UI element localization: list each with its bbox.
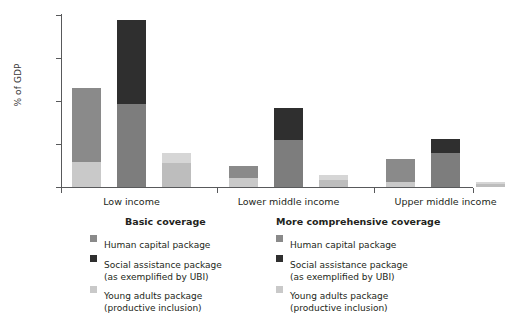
y-axis-title: % of GDP <box>13 45 23 125</box>
y-tick-mark <box>56 15 61 16</box>
bar-upper-middle-social-assistance <box>431 139 460 187</box>
bar-segment-upper <box>229 166 258 178</box>
legend-item-label: Social assistance package(as exemplified… <box>290 260 480 283</box>
x-axis-group-separator <box>217 188 218 193</box>
basic-legend-item-1[interactable]: Social assistance package(as exemplified… <box>90 253 270 283</box>
bar-segment-lower <box>72 162 101 187</box>
legend-swatch-icon <box>90 255 97 262</box>
x-axis-group-separator <box>374 188 375 193</box>
legend-swatch-icon <box>90 235 97 242</box>
legend-items-basic: Human capital packageSocial assistance p… <box>90 233 270 313</box>
y-tick-5: 5 <box>0 144 61 145</box>
legend-items-comprehensive: Human capital packageSocial assistance p… <box>276 233 480 313</box>
bar-low-income-human-capital <box>72 88 101 187</box>
bar-segment-lower <box>476 184 505 187</box>
bar-segment-lower <box>386 182 415 187</box>
bar-segment-upper <box>72 88 101 162</box>
comprehensive-legend-item-0[interactable]: Human capital package <box>276 233 480 252</box>
x-axis-label-lower-middle-income: Lower middle income <box>209 196 369 207</box>
legend-item-label: Young adults package(productive inclusio… <box>104 291 270 314</box>
bar-segment-upper <box>117 20 146 103</box>
legend-item-sublabel: (as exemplified by UBI) <box>104 272 270 283</box>
bar-segment-upper <box>386 159 415 182</box>
legend-swatch-icon <box>276 255 283 262</box>
bar-segment-upper <box>319 175 348 180</box>
x-axis-label-upper-middle-income: Upper middle income <box>366 196 509 207</box>
legend-swatch-icon <box>276 286 283 293</box>
x-axis-end-tick <box>473 188 474 193</box>
bar-lower-middle-social-assistance <box>274 108 303 187</box>
legend-swatch-icon <box>90 286 97 293</box>
legend-item-label: Human capital package <box>290 240 396 250</box>
bar-segment-lower <box>431 153 460 187</box>
bar-segment-upper <box>476 182 505 184</box>
bar-segment-lower <box>274 140 303 187</box>
bar-upper-middle-human-capital <box>386 159 415 187</box>
legend-item-label: Social assistance package(as exemplified… <box>104 260 270 283</box>
bar-lower-middle-human-capital <box>229 166 258 187</box>
comprehensive-legend-item-2[interactable]: Young adults package(productive inclusio… <box>276 284 480 314</box>
bar-segment-lower <box>117 104 146 187</box>
y-tick-mark <box>56 58 61 59</box>
bar-upper-middle-young-adults <box>476 182 505 187</box>
y-tick-mark <box>56 101 61 102</box>
bar-low-income-social-assistance <box>117 20 146 187</box>
bar-low-income-young-adults <box>162 153 191 187</box>
x-axis-label-low-income: Low income <box>52 196 212 207</box>
bar-segment-upper <box>431 139 460 153</box>
basic-legend-item-2[interactable]: Young adults package(productive inclusio… <box>90 284 270 314</box>
legend-item-sublabel: (productive inclusion) <box>104 303 270 314</box>
y-tick-15: 15 <box>0 58 61 59</box>
chart-legend: Basic coverage Human capital packageSoci… <box>0 216 480 310</box>
legend-title-basic: Basic coverage <box>90 216 270 227</box>
legend-group-basic-coverage: Basic coverage Human capital packageSoci… <box>90 216 270 314</box>
bar-segment-lower <box>162 163 191 187</box>
y-tick-mark <box>56 144 61 145</box>
bar-segment-upper <box>162 153 191 163</box>
comprehensive-legend-item-1[interactable]: Social assistance package(as exemplified… <box>276 253 480 283</box>
legend-swatch-icon <box>276 235 283 242</box>
legend-group-comprehensive-coverage: More comprehensive coverage Human capita… <box>276 216 480 314</box>
bar-lower-middle-young-adults <box>319 175 348 187</box>
legend-item-sublabel: (productive inclusion) <box>290 303 480 314</box>
bar-segment-lower <box>319 180 348 187</box>
y-tick-20: 20 <box>0 15 61 16</box>
legend-item-sublabel: (as exemplified by UBI) <box>290 272 480 283</box>
y-tick-10: 10 <box>0 101 61 102</box>
y-tick-0: 0 <box>0 187 61 188</box>
plot-area <box>62 15 473 187</box>
x-axis-line <box>61 187 473 188</box>
legend-item-label: Young adults package(productive inclusio… <box>290 291 480 314</box>
x-axis-end-tick <box>61 188 62 193</box>
legend-item-label: Human capital package <box>104 240 210 250</box>
basic-legend-item-0[interactable]: Human capital package <box>90 233 270 252</box>
bar-segment-upper <box>274 108 303 140</box>
legend-title-comprehensive: More comprehensive coverage <box>276 216 480 227</box>
bar-segment-lower <box>229 178 258 187</box>
